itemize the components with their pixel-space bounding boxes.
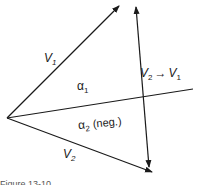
arrow-right-icon: →: [154, 66, 166, 80]
label-v2: V2: [63, 148, 75, 160]
figure-caption: Figure 13-10: [0, 179, 51, 185]
vector-diagram: [0, 0, 200, 185]
label-v1: V1: [44, 52, 56, 64]
reference-line: [7, 89, 193, 118]
vector-difference: [136, 7, 149, 167]
vector-v1: [7, 6, 119, 118]
label-v2-to-v1: V2→V1: [140, 67, 181, 79]
label-alpha1: α1: [77, 80, 88, 92]
